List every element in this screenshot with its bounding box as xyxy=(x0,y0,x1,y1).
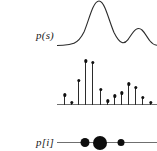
stem-line xyxy=(128,84,129,105)
stem-line xyxy=(92,63,93,105)
stem-line xyxy=(114,96,115,105)
particle-marker xyxy=(81,138,90,147)
panel-continuous-density: p(s) xyxy=(0,0,157,52)
stem-marker xyxy=(113,94,116,97)
particle-marker xyxy=(118,139,125,146)
stem-plot xyxy=(57,53,157,105)
stem-marker xyxy=(106,99,109,102)
three-panel-figure: p(s) p[i] {s, m} xyxy=(0,0,157,151)
stem-marker xyxy=(84,59,87,62)
stem-marker xyxy=(63,93,66,96)
stem-line xyxy=(121,93,122,105)
particle-axis xyxy=(57,142,157,143)
particle-line xyxy=(57,118,157,151)
stem-marker xyxy=(127,82,130,85)
stem-line xyxy=(100,89,101,105)
stem-line xyxy=(85,61,86,105)
stem-marker xyxy=(120,91,123,94)
stem-line xyxy=(135,88,136,105)
stem-marker xyxy=(77,79,80,82)
panel-label-p-of-s: p(s) xyxy=(2,29,54,41)
stem-line xyxy=(64,95,65,105)
stem-marker xyxy=(141,96,144,99)
stem-line xyxy=(78,81,79,105)
density-curve xyxy=(57,0,157,48)
stem-marker xyxy=(91,61,94,64)
stem-marker xyxy=(99,88,102,91)
particle-marker xyxy=(93,136,107,150)
stem-marker xyxy=(134,86,137,89)
